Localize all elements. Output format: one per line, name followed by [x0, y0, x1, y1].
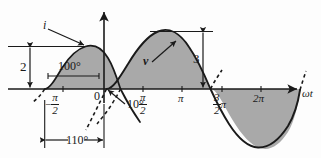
tick-label-two-pi: 2π [253, 93, 264, 104]
current-wave-fill [45, 46, 121, 89]
waveform-figure: i v 2 3 100° 10° 110° 0 −π2 π2 π 32π 2π … [0, 0, 321, 158]
current-curve-dashed-left [33, 89, 45, 102]
fraction-neg-half-pi: π2 [51, 92, 59, 116]
tick-label-three-half-pi: 32π [213, 92, 226, 116]
fraction-three-halves: 32 [213, 92, 221, 116]
tick-label-half-pi: π2 [139, 92, 147, 116]
current-curve-dashed-lower [97, 89, 121, 124]
tick-label-pi: π [178, 93, 184, 104]
current-curve-label: i [43, 19, 46, 31]
origin-label: 0 [94, 90, 100, 102]
fraction-half-pi: π2 [139, 92, 147, 116]
phase-difference-label: 110° [66, 134, 88, 146]
tick-label-neg-half-pi: −π2 [45, 92, 59, 116]
voltage-curve-label: v [143, 55, 148, 67]
pi-suffix: π [221, 99, 227, 110]
amplitude-i-label: 2 [20, 60, 27, 73]
current-label-leader [48, 29, 84, 45]
amplitude-v-label: 3 [193, 52, 200, 65]
phase-i-label: 100° [58, 60, 81, 72]
x-axis-label: ωt [302, 88, 313, 99]
voltage-curve-dash-3pi2 [211, 70, 223, 89]
figure-canvas [0, 0, 321, 158]
